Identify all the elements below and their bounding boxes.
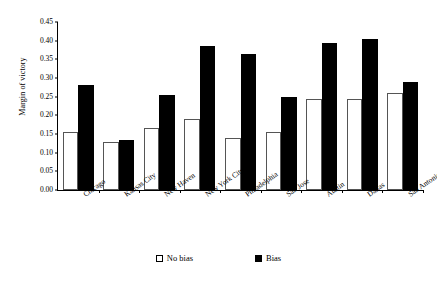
bar-bias [78, 85, 94, 190]
legend-label-bias: Bias [266, 253, 281, 263]
bar-no-bias [306, 99, 322, 190]
x-axis-category-label: San Jose [285, 192, 289, 198]
bar-bias [403, 82, 419, 190]
y-axis-tick-mark [55, 78, 58, 79]
x-axis-category-label: New Haven [163, 192, 167, 198]
bar-no-bias [387, 93, 403, 190]
x-axis-labels: ChicagoKansas CityNew HavenNew York City… [57, 192, 422, 247]
y-axis-tick-mark [55, 171, 58, 172]
y-axis-tick-mark [55, 134, 58, 135]
y-axis-tick-mark [55, 96, 58, 97]
y-axis-tick-mark [55, 40, 58, 41]
filled-square-icon [255, 255, 262, 262]
x-axis-category-label: Chicago [82, 192, 86, 198]
bar-bias [119, 140, 135, 190]
chart-legend: No bias Bias [0, 253, 437, 263]
bar-bias [281, 97, 297, 190]
y-axis-tick-mark [55, 115, 58, 116]
y-axis-tick-mark [55, 59, 58, 60]
bar-bias [159, 95, 175, 190]
legend-item-bias: Bias [255, 253, 281, 263]
x-axis-category-label: Kansas City [123, 192, 127, 198]
bar-no-bias [347, 99, 363, 190]
x-axis-category-label: Dallas [366, 192, 370, 198]
legend-label-no-bias: No bias [167, 253, 193, 263]
x-axis-category-label: New York City [204, 192, 208, 198]
bar-bias [362, 39, 378, 190]
y-axis-title: Margin of victory [18, 27, 27, 147]
x-axis-category-label: San Antonio [407, 192, 411, 198]
y-axis-tick-mark [55, 22, 58, 23]
bar-no-bias [63, 132, 79, 190]
hollow-square-icon [156, 255, 163, 262]
y-axis-tick-mark [55, 190, 58, 191]
x-axis-category-label: Philadelphia [244, 192, 248, 198]
bar-bias [200, 46, 216, 190]
y-axis-tick-mark [55, 152, 58, 153]
legend-item-no-bias: No bias [156, 253, 193, 263]
x-axis-category-label: Austin [325, 192, 329, 198]
bar-chart: Margin of victory 0.000.050.100.150.200.… [0, 0, 437, 283]
bar-bias [322, 43, 338, 190]
